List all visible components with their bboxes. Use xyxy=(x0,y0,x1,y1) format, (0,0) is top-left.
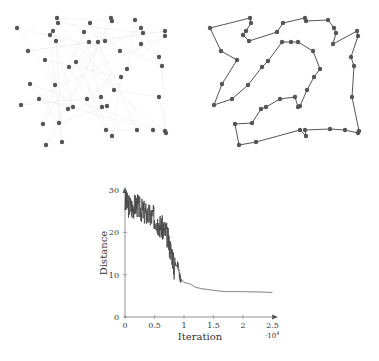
city-point xyxy=(118,49,122,53)
city-point xyxy=(305,88,309,92)
tour-edge xyxy=(46,18,111,145)
city-point xyxy=(53,83,57,87)
city-point xyxy=(133,18,137,22)
city-point xyxy=(44,143,48,147)
city-point xyxy=(264,105,268,109)
city-point xyxy=(99,95,103,99)
city-point xyxy=(298,104,302,108)
city-point xyxy=(112,88,116,92)
city-point xyxy=(55,16,59,20)
city-point xyxy=(164,131,168,135)
city-point xyxy=(66,107,70,111)
city-point xyxy=(160,64,164,68)
city-point xyxy=(96,40,100,44)
tour-edge xyxy=(56,41,165,131)
city-point xyxy=(281,21,285,25)
city-point xyxy=(275,30,279,34)
x-tick-label: 1 xyxy=(181,321,186,330)
x-axis-label: Iteration xyxy=(178,331,223,342)
tour-edge xyxy=(127,20,135,69)
city-point xyxy=(318,67,322,71)
city-point xyxy=(26,49,30,53)
city-point xyxy=(241,33,245,37)
city-point xyxy=(139,42,143,46)
x-tick-label: 0.5 xyxy=(148,321,161,330)
city-point xyxy=(125,67,129,71)
city-point xyxy=(334,31,338,35)
city-point xyxy=(163,29,167,33)
city-point xyxy=(356,131,360,135)
city-point xyxy=(28,82,32,86)
city-point xyxy=(260,65,264,69)
optimized-tour-plot xyxy=(208,16,361,147)
city-point xyxy=(60,140,64,144)
city-point xyxy=(74,60,78,64)
city-point xyxy=(326,18,330,22)
tour-edge xyxy=(43,42,89,124)
city-point xyxy=(139,26,143,30)
city-point xyxy=(71,105,75,109)
tour-edge xyxy=(141,44,159,57)
city-point xyxy=(41,122,45,126)
city-point xyxy=(67,65,71,69)
city-point xyxy=(82,30,86,34)
city-point xyxy=(151,128,155,132)
y-tick-label: 0 xyxy=(114,313,119,322)
y-axis-label: Distance xyxy=(98,231,109,275)
city-point xyxy=(237,143,241,147)
city-point xyxy=(230,97,234,101)
y-ticks: 0102030 xyxy=(109,186,127,322)
x-tick-label: 1.5 xyxy=(207,321,220,330)
x-tick-label: 0 xyxy=(122,321,127,330)
city-point xyxy=(250,121,254,125)
distance-series-line xyxy=(125,192,272,292)
city-point xyxy=(304,19,308,23)
tour-edge xyxy=(57,18,112,21)
city-point xyxy=(54,39,58,43)
x-axis-arrow-icon xyxy=(272,315,278,320)
city-point xyxy=(332,26,336,30)
city-point xyxy=(356,34,360,38)
city-point xyxy=(119,75,123,79)
city-point xyxy=(219,49,223,53)
y-tick-label: 20 xyxy=(109,228,119,237)
city-point xyxy=(311,49,315,53)
x-tick-label: 2 xyxy=(240,321,245,330)
city-point xyxy=(254,140,258,144)
distance-chart: 0102030 00.511.522.5 Iteration Distance … xyxy=(98,186,279,342)
city-point xyxy=(350,95,354,99)
city-point xyxy=(212,103,216,107)
city-point xyxy=(293,95,297,99)
city-point xyxy=(157,95,161,99)
city-point xyxy=(85,97,89,101)
tour-edge xyxy=(135,20,159,57)
x-tick-label: 2.5 xyxy=(266,321,279,330)
optimized-tour-path xyxy=(210,18,359,145)
city-point xyxy=(233,122,237,126)
city-point xyxy=(15,26,19,30)
city-point xyxy=(100,105,104,109)
city-point xyxy=(135,128,139,132)
y-tick-label: 10 xyxy=(109,271,119,280)
city-point xyxy=(43,58,47,62)
city-point xyxy=(141,31,145,35)
city-point xyxy=(57,121,61,125)
city-point xyxy=(163,34,167,38)
city-point xyxy=(328,127,332,131)
city-point xyxy=(247,39,251,43)
city-point xyxy=(110,134,114,138)
city-point xyxy=(104,128,108,132)
city-point xyxy=(266,59,270,63)
city-point xyxy=(249,21,253,25)
y-tick-label: 30 xyxy=(109,186,119,195)
city-point xyxy=(244,29,248,33)
city-point xyxy=(304,134,308,138)
city-point xyxy=(278,97,282,101)
tour-edge xyxy=(112,77,121,136)
city-point xyxy=(349,55,353,59)
city-point xyxy=(298,128,302,132)
city-point xyxy=(343,128,347,132)
city-point xyxy=(303,128,307,132)
city-point xyxy=(208,26,212,30)
city-point xyxy=(289,40,293,44)
